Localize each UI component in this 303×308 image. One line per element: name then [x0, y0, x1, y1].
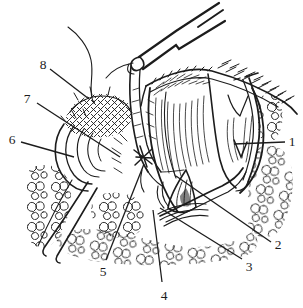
- leader-line-8: [50, 69, 89, 99]
- figure-label-1: 1: [289, 135, 296, 149]
- figure-label-3: 3: [246, 260, 253, 274]
- figure-label-4: 4: [161, 289, 168, 303]
- sac-hatching: [146, 74, 252, 176]
- figure-label-5: 5: [100, 265, 107, 279]
- anatomical-figure: 1 2 3 4 5 6 7 8: [0, 0, 303, 308]
- illustration-canvas: [0, 0, 303, 308]
- figure-label-7: 7: [24, 92, 31, 106]
- instrument-lines: [131, 3, 225, 71]
- leader-line-1: [234, 142, 285, 144]
- figure-label-6: 6: [9, 133, 16, 147]
- suture-thread: [68, 27, 134, 103]
- pouch: [157, 170, 208, 226]
- figure-label-2: 2: [275, 238, 282, 252]
- figure-label-8: 8: [40, 58, 47, 72]
- dark-tissue-mass: [65, 87, 132, 137]
